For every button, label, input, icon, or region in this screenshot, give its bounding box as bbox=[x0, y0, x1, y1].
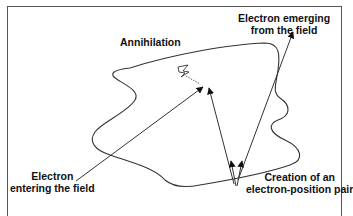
field-boundary bbox=[92, 43, 299, 186]
emerging-electron-label: Electron emerging from the field bbox=[238, 12, 330, 36]
entering-electron-path bbox=[76, 87, 203, 181]
creation-label-line1: Creation of an bbox=[246, 171, 353, 183]
entering-label-line2: entering the field bbox=[10, 182, 95, 194]
creation-label-line2: electron-position pair bbox=[246, 183, 353, 195]
pair-creation-label: Creation of an electron-position pair bbox=[246, 171, 353, 195]
emerging-label-line1: Electron emerging bbox=[238, 12, 330, 24]
emerging-label-line2: from the field bbox=[238, 24, 330, 36]
pair-right-arrow bbox=[237, 161, 242, 186]
entering-label-line1: Electron bbox=[10, 170, 95, 182]
emerging-electron-path bbox=[238, 32, 293, 180]
annihilation-label: Annihilation bbox=[120, 36, 181, 48]
entering-electron-label: Electron entering the field bbox=[10, 170, 95, 194]
positron-path bbox=[209, 88, 234, 184]
lightning-icon bbox=[178, 65, 200, 84]
